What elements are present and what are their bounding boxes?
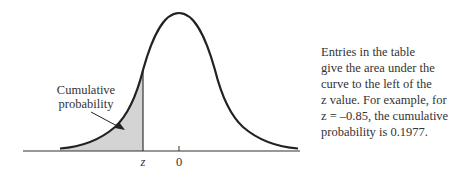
region-label-line-2: probability [59, 97, 115, 111]
caption-line-1: Entries in the table [321, 44, 461, 60]
bell-curve [60, 13, 298, 149]
caption-text: Entries in the table give the area under… [321, 44, 461, 140]
zero-tick-label: 0 [176, 155, 182, 169]
caption-line-6: probability is 0.1977. [321, 124, 461, 140]
z-tick-label: z [140, 155, 146, 169]
caption-line-2: give the area under the [321, 60, 461, 76]
normal-curve-figure: Cumulative probability z 0 Entries in th… [0, 0, 461, 178]
caption-line-4: z value. For example, for [321, 92, 461, 108]
caption-line-5: z = –0.85, the cumulative [321, 108, 461, 124]
arrow-line [91, 112, 119, 127]
caption-line-3: curve to the left of the [321, 76, 461, 92]
region-label-line-1: Cumulative [57, 83, 116, 97]
